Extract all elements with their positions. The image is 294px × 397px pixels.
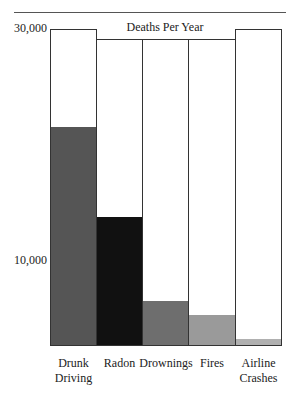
bar-fill-radon xyxy=(97,217,142,345)
bar-radon xyxy=(96,39,143,346)
bar-fill-drownings xyxy=(143,301,188,345)
bar-fill-drunk-driving xyxy=(51,127,96,345)
x-label-line: Airline xyxy=(235,356,282,371)
x-label-drunk-driving: Drunk Driving xyxy=(50,356,97,386)
y-tick-10000: 10,000 xyxy=(14,253,47,268)
bar-airline-crashes xyxy=(235,29,282,346)
x-label-drownings: Drownings xyxy=(136,356,196,371)
x-label-fires: Fires xyxy=(188,356,236,371)
x-label-line: Crashes xyxy=(235,371,282,386)
y-tick-30000: 30,000 xyxy=(14,21,47,36)
bar-fires xyxy=(188,39,236,346)
bar-fill-airline-crashes xyxy=(236,339,281,345)
chart-title: Deaths Per Year xyxy=(97,20,233,35)
top-rule xyxy=(14,12,286,13)
x-label-line: Drunk xyxy=(50,356,97,371)
x-label-airline-crashes: Airline Crashes xyxy=(235,356,282,386)
bar-drownings xyxy=(142,39,189,346)
x-label-line: Driving xyxy=(50,371,97,386)
bar-drunk-driving xyxy=(50,29,97,346)
bar-fill-fires xyxy=(189,315,235,345)
